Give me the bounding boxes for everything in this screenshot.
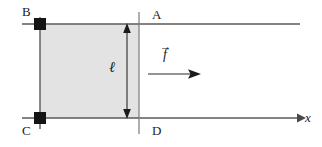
force-vector-group: → f — [163, 48, 167, 62]
label-axis-x: x — [305, 111, 311, 124]
contact-square-c — [34, 112, 46, 124]
label-length-ell: ℓ — [109, 60, 115, 75]
physics-diagram-rails-and-bar: B A C D ℓ x → f — [0, 0, 322, 147]
label-force-vector: → f — [163, 48, 167, 62]
label-corner-b: B — [22, 5, 31, 18]
contact-square-b — [34, 18, 46, 30]
label-corner-c: C — [22, 124, 31, 137]
shaded-loop-area — [40, 24, 139, 118]
vector-accent-arrow-icon: → — [160, 41, 171, 52]
label-corner-d: D — [152, 124, 161, 137]
label-corner-a: A — [152, 8, 161, 21]
